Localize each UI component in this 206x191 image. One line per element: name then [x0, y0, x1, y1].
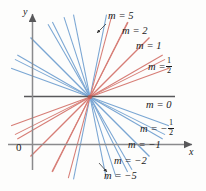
- label-m-minus-5: m = −5: [104, 170, 137, 181]
- fraction-one-half: 12: [166, 57, 172, 76]
- label-m-minus-one-half: m = −12: [140, 119, 174, 138]
- pointer-m-5: [97, 24, 106, 33]
- label-m-1: m = 1: [136, 40, 162, 51]
- label-m-2: m = 2: [122, 25, 148, 36]
- label-m-minus-2: m = −2: [114, 155, 147, 166]
- label-m-one-half: m =12: [148, 57, 172, 76]
- x-axis-label: x: [189, 146, 193, 157]
- y-axis-label: y: [23, 6, 27, 17]
- slope-pencil-figure: [0, 0, 206, 191]
- label-m-0: m = 0: [146, 99, 172, 110]
- pencil-point: [88, 95, 93, 100]
- label-m-5: m = 5: [108, 10, 134, 21]
- label-m-minus-1: m = −1: [128, 139, 161, 150]
- fraction-minus-one-half: 12: [168, 119, 174, 138]
- origin-label: 0: [16, 141, 22, 153]
